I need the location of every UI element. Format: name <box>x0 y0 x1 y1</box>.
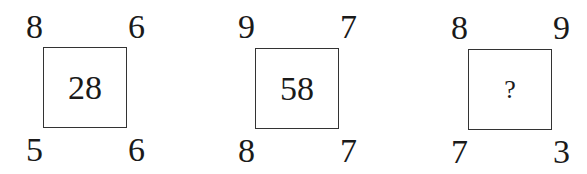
square-1-box: 28 <box>43 47 127 128</box>
square-2-bottom-right: 7 <box>340 134 357 168</box>
square-3-top-right: 9 <box>553 11 570 45</box>
square-1-bottom-right: 6 <box>128 133 145 167</box>
square-3-bottom-right: 3 <box>553 135 570 169</box>
square-2-top-right: 7 <box>340 10 357 44</box>
square-2-top-left: 9 <box>238 10 255 44</box>
square-3-box: ? <box>468 49 552 130</box>
square-1-bottom-left: 5 <box>26 133 43 167</box>
square-3-center-unknown: ? <box>504 77 516 103</box>
square-2-bottom-left: 8 <box>238 134 255 168</box>
square-3-top-left: 8 <box>451 11 468 45</box>
square-1-center: 28 <box>68 71 102 105</box>
square-2-box: 58 <box>255 48 339 129</box>
square-3-bottom-left: 7 <box>451 135 468 169</box>
square-2-center: 58 <box>280 72 314 106</box>
square-1-top-right: 6 <box>128 10 145 44</box>
number-square-puzzle: 8 6 28 5 6 9 7 58 8 7 8 9 ? 7 3 <box>0 0 587 174</box>
square-1-top-left: 8 <box>26 10 43 44</box>
